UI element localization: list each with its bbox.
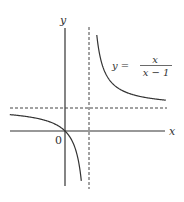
- svg-text:x − 1: x − 1: [143, 67, 170, 78]
- rational-function-graph: y x 0 y = x x − 1: [0, 0, 184, 202]
- x-axis-label: x: [169, 125, 176, 138]
- y-axis-label: y: [59, 14, 67, 27]
- origin-label: 0: [55, 134, 62, 147]
- curve-left-branch: [10, 115, 82, 181]
- svg-text:y =: y =: [111, 60, 129, 71]
- equation-label: y = x x − 1: [111, 54, 172, 78]
- svg-text:x: x: [152, 54, 158, 65]
